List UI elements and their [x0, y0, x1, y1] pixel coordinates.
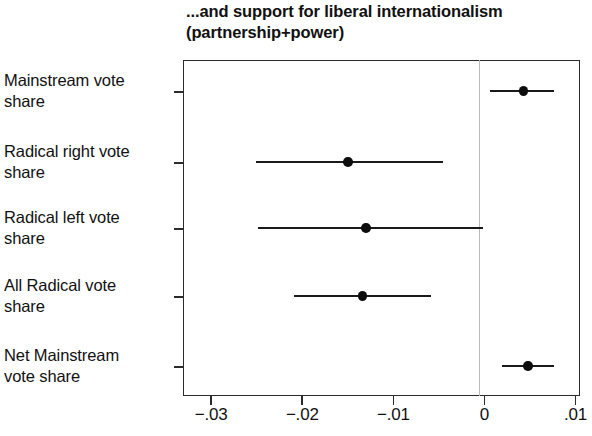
y-axis-category-labels: Mainstream vote shareRadical right vote …: [4, 0, 180, 436]
y-axis-tick-0: [174, 91, 183, 93]
y-axis-label-1: Radical right vote share: [4, 141, 180, 182]
x-axis-tick-label-1: −.02: [257, 405, 347, 425]
x-axis-tick-label-4: .01: [530, 405, 592, 425]
x-axis-tick-0: [210, 396, 212, 405]
y-axis-tick-3: [174, 296, 183, 298]
point-estimate-marker: [343, 157, 353, 167]
x-axis-tick-4: [575, 396, 577, 405]
y-axis-label-4: Net Mainstream vote share: [4, 345, 180, 386]
y-axis-tick-1: [174, 162, 183, 164]
x-axis-tick-2: [393, 396, 395, 405]
chart-title: ...and support for liberal international…: [186, 1, 582, 43]
point-estimate-marker: [519, 86, 529, 96]
x-axis-tick-label-2: −.01: [348, 405, 438, 425]
x-axis-tick-label-0: −.03: [166, 405, 256, 425]
x-axis-tick-label-3: 0: [439, 405, 529, 425]
y-axis-label-3: All Radical vote share: [4, 275, 180, 316]
point-estimate-marker: [358, 291, 368, 301]
y-axis-tick-4: [174, 366, 183, 368]
point-estimate-marker: [523, 361, 533, 371]
x-axis-tick-1: [301, 396, 303, 405]
x-axis-tick-3: [484, 396, 486, 405]
y-axis-tick-2: [174, 228, 183, 230]
y-axis-label-2: Radical left vote share: [4, 207, 180, 248]
point-estimate-marker: [361, 223, 371, 233]
y-axis-label-0: Mainstream vote share: [4, 70, 180, 111]
